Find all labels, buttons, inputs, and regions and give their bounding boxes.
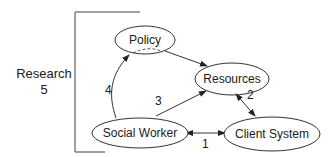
node-client-system-label: Client System xyxy=(235,127,309,141)
edge-3 xyxy=(156,91,206,116)
node-resources-label: Resources xyxy=(203,72,260,86)
edge-4 xyxy=(112,55,129,118)
edge-policy-resources xyxy=(165,51,207,66)
node-social-worker[interactable]: Social Worker xyxy=(92,118,188,148)
node-client-system[interactable]: Client System xyxy=(224,117,320,151)
node-policy[interactable]: Policy xyxy=(115,26,175,54)
diagram-canvas: Policy Resources Social Worker Client Sy… xyxy=(0,0,331,157)
edge-label-1: 1 xyxy=(202,137,209,151)
node-policy-label: Policy xyxy=(129,33,161,47)
research-number: 5 xyxy=(40,82,47,97)
node-resources[interactable]: Resources xyxy=(195,63,269,95)
edge-label-3: 3 xyxy=(155,94,162,108)
edge-label-2: 2 xyxy=(247,88,254,102)
node-social-worker-label: Social Worker xyxy=(103,126,177,140)
edge-label-4: 4 xyxy=(105,83,112,97)
research-label: Research xyxy=(16,66,72,81)
